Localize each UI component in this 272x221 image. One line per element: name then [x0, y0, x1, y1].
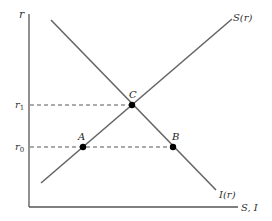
savings-curve	[41, 19, 232, 183]
curves: S(r) I(r)	[41, 12, 253, 200]
point-C-label: C	[129, 89, 137, 100]
investment-curve-label: I(r)	[218, 189, 236, 200]
x-axis-label: S, I	[241, 202, 259, 213]
point-A	[80, 144, 86, 150]
y-axis-label: r	[19, 8, 25, 21]
r1-label: r1	[15, 99, 24, 112]
point-A-label: A	[77, 131, 85, 142]
r0-label: r0	[15, 141, 24, 154]
interest-rate-levels: r1 r0	[15, 99, 173, 154]
points: A B C	[77, 89, 179, 150]
savings-curve-label: S(r)	[233, 12, 253, 23]
savings-investment-diagram: r S, I r1 r0 S(r) I(r) A B C	[0, 0, 272, 221]
point-B-label: B	[171, 131, 179, 142]
point-C	[129, 102, 135, 108]
point-B	[170, 144, 176, 150]
